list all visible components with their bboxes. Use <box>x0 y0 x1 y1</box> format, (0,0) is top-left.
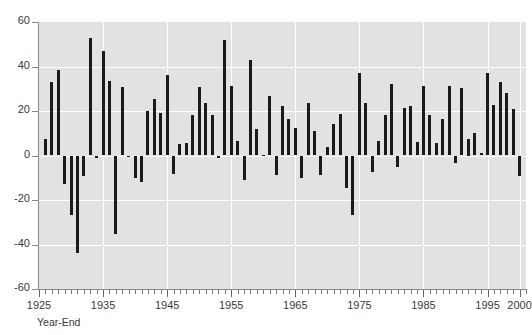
x-tick-minor <box>302 290 303 294</box>
x-tick-minor <box>90 290 91 294</box>
x-tick-major <box>231 290 232 297</box>
x-tick-minor <box>65 290 66 294</box>
y-tick-label: 0 <box>0 148 30 160</box>
x-tick-minor <box>385 290 386 294</box>
x-tick-major <box>488 290 489 297</box>
x-tick-minor <box>109 290 110 294</box>
x-tick-minor <box>263 290 264 294</box>
bar <box>403 108 406 156</box>
x-tick-minor <box>456 290 457 294</box>
x-tick-minor <box>270 290 271 294</box>
bar <box>428 115 431 156</box>
bar <box>217 156 220 159</box>
y-tick-mark <box>32 245 38 246</box>
bar <box>262 155 265 156</box>
bar <box>492 105 495 156</box>
x-tick-label: 1965 <box>283 299 307 311</box>
x-tick-minor <box>366 290 367 294</box>
bar <box>460 88 463 156</box>
x-tick-minor <box>500 290 501 294</box>
x-tick-major <box>39 290 40 297</box>
x-tick-minor <box>321 290 322 294</box>
bar <box>339 114 342 155</box>
y-tick-label: -40 <box>0 237 30 249</box>
bar <box>114 156 117 234</box>
bar <box>178 144 181 155</box>
x-axis-title: Year-End <box>37 316 80 328</box>
bar <box>390 84 393 156</box>
x-tick-label: 2000 <box>507 299 531 311</box>
bar <box>249 60 252 156</box>
x-tick-minor <box>308 290 309 294</box>
x-tick-minor <box>443 290 444 294</box>
x-tick-minor <box>161 290 162 294</box>
bar <box>153 99 156 156</box>
y-tick-label: 60 <box>0 14 30 26</box>
gridline-y--40 <box>39 245 526 246</box>
gridline-x-1945 <box>167 22 168 289</box>
bar <box>134 156 137 178</box>
x-tick-major <box>167 290 168 297</box>
x-tick-minor <box>52 290 53 294</box>
bar <box>223 40 226 155</box>
bar <box>102 51 105 155</box>
bar <box>198 87 201 155</box>
x-tick-minor <box>84 290 85 294</box>
x-tick-minor <box>436 290 437 294</box>
x-tick-minor <box>411 290 412 294</box>
y-tick-mark <box>32 289 38 290</box>
x-tick-major <box>423 290 424 297</box>
bar <box>307 103 310 156</box>
bar <box>345 156 348 189</box>
gridline-y--20 <box>39 200 526 201</box>
bar <box>294 128 297 155</box>
x-tick-major <box>359 290 360 297</box>
x-tick-minor <box>218 290 219 294</box>
x-tick-minor <box>244 290 245 294</box>
x-tick-minor <box>212 290 213 294</box>
bar <box>518 156 521 176</box>
bar <box>467 139 470 156</box>
bar <box>499 82 502 156</box>
bar <box>480 153 483 156</box>
x-tick-minor <box>327 290 328 294</box>
x-tick-minor <box>225 290 226 294</box>
x-tick-major <box>103 290 104 297</box>
bar <box>486 73 489 156</box>
x-tick-minor <box>347 290 348 294</box>
plot-area <box>39 22 526 289</box>
y-tick-label: -20 <box>0 192 30 204</box>
y-tick-mark <box>32 200 38 201</box>
bar <box>127 156 130 158</box>
x-tick-minor <box>398 290 399 294</box>
x-tick-minor <box>250 290 251 294</box>
bar <box>121 87 124 156</box>
bar <box>319 156 322 175</box>
x-tick-minor <box>481 290 482 294</box>
x-tick-minor <box>417 290 418 294</box>
bar <box>351 156 354 215</box>
y-tick-mark <box>32 22 38 23</box>
x-tick-label: 1925 <box>27 299 51 311</box>
x-tick-minor <box>45 290 46 294</box>
x-tick-minor <box>468 290 469 294</box>
x-tick-label: 1935 <box>91 299 115 311</box>
bar <box>185 143 188 155</box>
x-tick-minor <box>372 290 373 294</box>
x-tick-minor <box>404 290 405 294</box>
x-tick-minor <box>283 290 284 294</box>
bar <box>172 156 175 175</box>
bar <box>454 156 457 164</box>
bar <box>441 119 444 156</box>
bar <box>505 93 508 156</box>
x-tick-minor <box>494 290 495 294</box>
bar <box>146 111 149 156</box>
bar <box>159 113 162 156</box>
gridline-x-1975 <box>359 22 360 289</box>
y-axis-line <box>38 22 39 290</box>
bar <box>211 115 214 155</box>
bar <box>332 124 335 155</box>
x-tick-minor <box>513 290 514 294</box>
gridline-y-40 <box>39 67 526 68</box>
